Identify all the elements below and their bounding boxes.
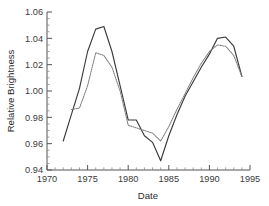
y-tick-label: 1.02 [25,60,43,70]
series-line-dotted [71,45,242,141]
data-series-group [63,26,242,160]
y-tick-label: 0.98 [25,113,43,123]
x-tick-label: 1975 [77,174,97,184]
y-axis-title: Relative Brightness [5,49,16,132]
x-tick-label: 1985 [159,174,179,184]
x-axis-tick-labels: 197019751980198519901995 [37,174,260,184]
x-axis-ticks [47,165,250,170]
x-tick-label: 1995 [240,174,260,184]
y-tick-label: 0.96 [25,139,43,149]
y-axis-ticks [47,12,52,170]
y-axis-tick-labels: 0.940.960.981.001.021.041.06 [25,7,43,175]
x-tick-label: 1980 [118,174,138,184]
axis-frame [47,12,250,170]
y-tick-label: 1.00 [25,86,43,96]
y-tick-label: 1.06 [25,7,43,17]
line-chart: 0.940.960.981.001.021.041.06 19701975198… [0,0,269,206]
x-tick-label: 1990 [199,174,219,184]
y-tick-label: 1.04 [25,34,43,44]
x-axis-title: Date [138,190,158,201]
figure-container: 0.940.960.981.001.021.041.06 19701975198… [0,0,269,206]
x-tick-label: 1970 [37,174,57,184]
